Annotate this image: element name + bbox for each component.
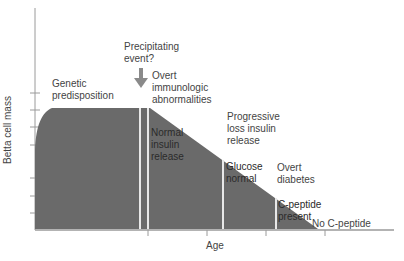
x-ticks <box>148 230 325 236</box>
y-axis-label: Betta cell mass <box>2 80 16 180</box>
label-line: release <box>151 151 184 163</box>
label-overt-diabetes: Overt diabetes <box>277 162 315 186</box>
label-progressive-loss: Progressive loss insulin release <box>227 111 280 147</box>
label-line: diabetes <box>277 174 315 186</box>
label-line: normal <box>226 173 263 185</box>
label-line: C-peptide <box>278 199 321 211</box>
label-precipitating-event: Precipitating event? <box>124 41 179 65</box>
down-arrow-icon <box>134 68 148 88</box>
label-line: abnormalities <box>152 94 211 106</box>
label-line: Glucose <box>226 161 263 173</box>
label-line: event? <box>124 53 179 65</box>
label-line: insulin <box>151 139 184 151</box>
label-line: Normal <box>151 127 184 139</box>
label-line: Genetic <box>52 78 114 90</box>
label-no-c-peptide: No C-peptide <box>312 218 371 230</box>
label-normal-insulin-release: Normal insulin release <box>151 127 184 163</box>
label-glucose-normal: Glucose normal <box>226 161 263 185</box>
label-line: loss insulin <box>227 123 280 135</box>
label-line: Precipitating <box>124 41 179 53</box>
label-line: immunologic <box>152 82 211 94</box>
label-genetic-predisposition: Genetic predisposition <box>52 78 114 102</box>
diagram: Betta cell mass Genetic predisposition P… <box>0 0 404 261</box>
x-axis-label: Age <box>206 240 224 252</box>
label-line: Overt <box>152 70 211 82</box>
label-overt-immunologic: Overt immunologic abnormalities <box>152 70 211 106</box>
label-line: Overt <box>277 162 315 174</box>
label-line: release <box>227 135 280 147</box>
label-line: Progressive <box>227 111 280 123</box>
label-line: predisposition <box>52 90 114 102</box>
